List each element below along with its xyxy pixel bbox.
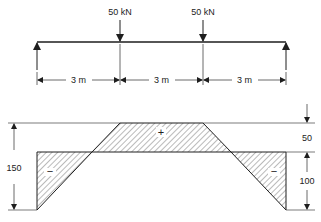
point-load-1: 50 kN [108, 7, 132, 41]
region-negative-left [37, 152, 92, 210]
dimension-label-50: 50 [302, 133, 312, 143]
dimension-label-100: 100 [299, 176, 314, 186]
moment-diagram: − + − [37, 123, 286, 210]
dimension-label-150: 150 [6, 163, 21, 173]
span-label-2: 3 m [154, 75, 169, 85]
span-label-3: 3 m [237, 75, 252, 85]
beam-diagram-canvas: 50 kN 50 kN 3 m 3 m 3 m [0, 0, 321, 222]
span-dimensions: 3 m 3 m 3 m [37, 44, 286, 85]
region-negative-right [231, 152, 286, 210]
span-label-1: 3 m [71, 75, 86, 85]
sign-positive-middle: + [158, 126, 164, 138]
sign-negative-right: − [271, 165, 277, 177]
load-label-1: 50 kN [108, 7, 132, 17]
point-load-2: 50 kN [191, 7, 215, 41]
sign-negative-left: − [47, 165, 53, 177]
load-label-2: 50 kN [191, 7, 215, 17]
